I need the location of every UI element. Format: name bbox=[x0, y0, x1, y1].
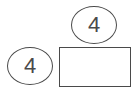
answer-box[interactable] bbox=[59, 47, 131, 87]
top-number: 4 bbox=[88, 14, 100, 36]
top-number-circle: 4 bbox=[71, 6, 117, 44]
left-number-circle: 4 bbox=[7, 47, 53, 85]
left-number: 4 bbox=[24, 55, 36, 77]
